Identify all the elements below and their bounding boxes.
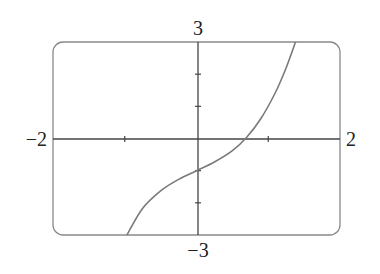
y-min-label: −3 <box>187 239 208 261</box>
x-max-label: 2 <box>346 128 356 150</box>
y-max-label: 3 <box>193 17 203 39</box>
plot-canvas: 3 −3 −2 2 <box>0 0 380 274</box>
x-min-label: −2 <box>26 128 47 150</box>
